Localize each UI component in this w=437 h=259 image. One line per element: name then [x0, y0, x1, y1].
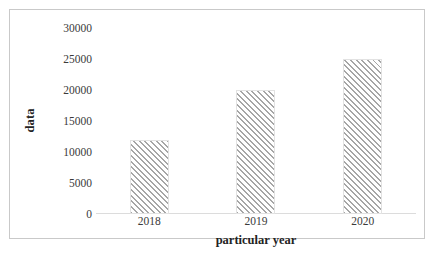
bar-2020[interactable]: [343, 59, 382, 214]
y-axis-tick-labels: 30000 25000 20000 15000 10000 5000 0: [36, 28, 92, 214]
y-tick-label: 5000: [36, 177, 92, 189]
x-axis-title: particular year: [96, 233, 416, 248]
plot-area: [96, 28, 416, 214]
bar-2018[interactable]: [130, 140, 169, 214]
y-tick-label: 10000: [36, 146, 92, 158]
x-tick-label: 2020: [309, 215, 416, 227]
chart-frame: data 30000 25000 20000 15000 10000 5000 …: [9, 9, 425, 239]
y-tick-label: 15000: [36, 115, 92, 127]
x-axis-tick-labels: 2018 2019 2020: [96, 215, 416, 227]
bar-slot: [309, 28, 416, 214]
bar-group: [96, 28, 416, 214]
x-tick-label: 2019: [203, 215, 310, 227]
bar-2019[interactable]: [236, 90, 275, 214]
x-tick-label: 2018: [96, 215, 203, 227]
y-tick-label: 25000: [36, 53, 92, 65]
bar-slot: [96, 28, 203, 214]
y-tick-label: 20000: [36, 84, 92, 96]
y-tick-label: 0: [36, 208, 92, 220]
figure-container: data 30000 25000 20000 15000 10000 5000 …: [0, 0, 437, 259]
bar-slot: [203, 28, 310, 214]
y-tick-label: 30000: [36, 22, 92, 34]
